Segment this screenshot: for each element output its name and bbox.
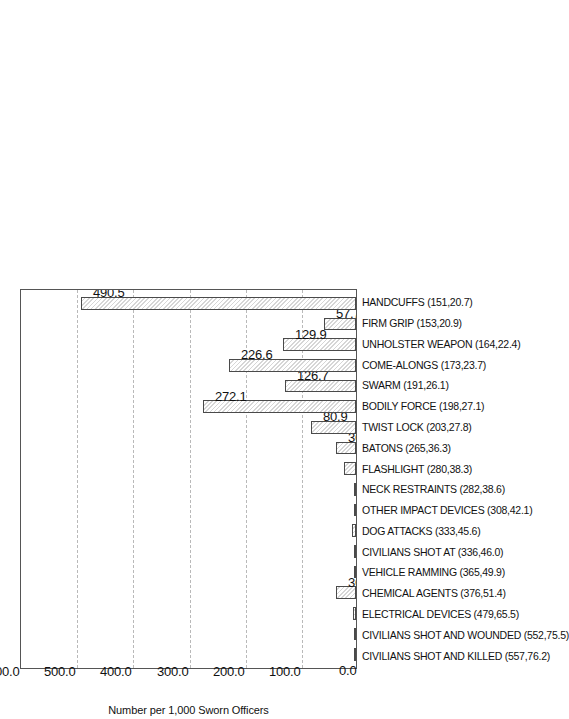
bar[interactable] — [352, 524, 356, 537]
value-tick-label: 300.0 — [156, 665, 188, 678]
category-slot: DOG ATTACKS (333,45.6) — [357, 521, 425, 542]
bar[interactable] — [354, 648, 356, 661]
value-axis-title: Number per 1,000 Sworn Officers — [20, 705, 357, 716]
category-slot: CIVILIANS SHOT AND WOUNDED (552,75.5) — [357, 624, 425, 645]
category-slot: CIVILIANS SHOT AT (336,46.0) — [357, 541, 425, 562]
category-label: CIVILIANS SHOT AND WOUNDED (552,75.5) — [362, 630, 569, 641]
bar-slot[interactable]: 2.4 — [21, 500, 356, 521]
category-label: CIVILIANS SHOT AND KILLED (557,76.2) — [362, 650, 550, 661]
bar[interactable] — [354, 566, 356, 579]
category-slot: ELECTRICAL DEVICES (479,65.5) — [357, 604, 425, 625]
value-tick-label: 0.0 — [339, 665, 356, 678]
bar-slot[interactable]: 36.0 — [21, 438, 356, 459]
value-tick-label: 400.0 — [100, 665, 132, 678]
value-tick-label: 100.0 — [269, 665, 301, 678]
category-slot: CIVILIANS SHOT AND KILLED (557,76.2) — [357, 645, 425, 666]
category-label: DOG ATTACKS (333,45.6) — [362, 526, 480, 537]
bar-slot[interactable]: 0.9 — [21, 644, 356, 665]
category-label: BODILY FORCE (198,27.1) — [362, 401, 484, 412]
bar[interactable] — [354, 483, 356, 496]
category-label: COME-ALONGS (173,23.7) — [362, 359, 486, 370]
bar-slot[interactable]: 6.5 — [21, 520, 356, 541]
category-label: CHEMICAL AGENTS (376,51.4) — [362, 588, 506, 599]
category-label: TWIST LOCK (203,27.8) — [362, 422, 472, 433]
category-slot: NECK RESTRAINTS (282,38.6) — [357, 479, 425, 500]
category-label: NECK RESTRAINTS (282,38.6) — [362, 484, 505, 495]
axis-title-wrap: Number per 1,000 Sworn Officers — [20, 705, 357, 719]
bar[interactable] — [344, 462, 356, 475]
category-slot: SWARM (191,26.1) — [357, 375, 425, 396]
category-slot: HANDCUFFS (151,20.7) — [357, 292, 425, 313]
category-slot: VEHICLE RAMMING (365,49.9) — [357, 562, 425, 583]
bar-series: 0.90.25.436.21.03.06.52.41.421.736.080.9… — [21, 290, 356, 668]
bar-slot[interactable]: 1.4 — [21, 479, 356, 500]
value-tick-label: 200.0 — [213, 665, 245, 678]
category-slot: UNHOLSTER WEAPON (164,22.4) — [357, 334, 425, 355]
bar-slot[interactable]: 3.0 — [21, 541, 356, 562]
category-slot: BATONS (265,36.3) — [357, 437, 425, 458]
category-label: VEHICLE RAMMING (365,49.9) — [362, 567, 505, 578]
bar-slot[interactable]: 80.9 — [21, 417, 356, 438]
category-slot: BODILY FORCE (198,27.1) — [357, 396, 425, 417]
bar-slot[interactable]: 57.7 — [21, 314, 356, 335]
bar[interactable] — [354, 628, 356, 641]
category-label: OTHER IMPACT DEVICES (308,42.1) — [362, 505, 532, 516]
bar-slot[interactable]: 5.4 — [21, 603, 356, 624]
value-tick-label: 600.0 — [0, 665, 20, 678]
bar[interactable] — [354, 504, 356, 517]
bar-slot[interactable]: 129.9 — [21, 334, 356, 355]
category-label: BATONS (265,36.3) — [362, 443, 451, 454]
bar[interactable] — [353, 607, 356, 620]
bar-slot[interactable]: 490.5 — [21, 293, 356, 314]
category-label: SWARM (191,26.1) — [362, 380, 449, 391]
category-label: HANDCUFFS (151,20.7) — [362, 297, 473, 308]
value-tick-label: 500.0 — [44, 665, 76, 678]
category-slot: TWIST LOCK (203,27.8) — [357, 417, 425, 438]
category-slot: FLASHLIGHT (280,38.3) — [357, 458, 425, 479]
category-slot: FIRM GRIP (153,20.9) — [357, 313, 425, 334]
category-label: CIVILIANS SHOT AT (336,46.0) — [362, 546, 503, 557]
category-slot: CHEMICAL AGENTS (376,51.4) — [357, 583, 425, 604]
bar-slot[interactable]: 272.1 — [21, 396, 356, 417]
bar-slot[interactable]: 1.0 — [21, 562, 356, 583]
bar-slot[interactable]: 21.7 — [21, 458, 356, 479]
category-label: FIRM GRIP (153,20.9) — [362, 318, 462, 329]
plot-area: 0.90.25.436.21.03.06.52.41.421.736.080.9… — [20, 289, 357, 669]
bar-slot[interactable]: 0.2 — [21, 624, 356, 645]
category-slot: OTHER IMPACT DEVICES (308,42.1) — [357, 500, 425, 521]
bar[interactable] — [354, 545, 356, 558]
category-slot: COME-ALONGS (173,23.7) — [357, 354, 425, 375]
bar-slot[interactable]: 36.2 — [21, 582, 356, 603]
category-label: ELECTRICAL DEVICES (479,65.5) — [362, 609, 519, 620]
value-axis: Number per 1,000 Sworn Officers 0.0100.0… — [20, 669, 357, 707]
category-axis: CIVILIANS SHOT AND KILLED (557,76.2)CIVI… — [357, 289, 425, 669]
bar-slot[interactable]: 226.6 — [21, 355, 356, 376]
bar-slot[interactable]: 126.7 — [21, 376, 356, 397]
category-label: FLASHLIGHT (280,38.3) — [362, 463, 472, 474]
category-label: UNHOLSTER WEAPON (164,22.4) — [362, 339, 520, 350]
plot-inner: 0.90.25.436.21.03.06.52.41.421.736.080.9… — [21, 290, 356, 668]
bar-value-label: 490.5 — [93, 290, 125, 299]
